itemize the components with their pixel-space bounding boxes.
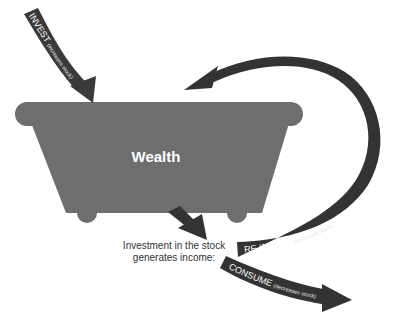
consume-arrowhead-icon	[322, 284, 352, 312]
svg-text:CONSUME(decreases stock): CONSUME(decreases stock)	[227, 261, 316, 299]
income-caption: Investment in the stock generates income…	[108, 240, 240, 264]
consume-arrow: CONSUME(decreases stock)	[220, 256, 352, 312]
invest-sublabel: (increases stock)	[46, 42, 75, 80]
caption-line-2: generates income:	[108, 252, 240, 264]
tub-body	[30, 120, 290, 213]
wealth-stock-flow-diagram: Wealth INVEST(increases stock) RE-INVEST…	[0, 0, 395, 321]
svg-text:INVEST(increases stock): INVEST(increases stock)	[27, 11, 75, 80]
reinvest-label: RE-INVEST	[244, 236, 294, 255]
stock-label: Wealth	[132, 148, 181, 165]
bathtub-stock: Wealth	[15, 102, 303, 223]
diagram-canvas: Wealth INVEST(increases stock) RE-INVEST…	[0, 0, 395, 321]
svg-text:RE-INVEST(increases stock): RE-INVEST(increases stock)	[244, 222, 334, 254]
reinvest-arrowhead-icon	[184, 66, 218, 90]
caption-line-1: Investment in the stock	[108, 240, 240, 252]
invest-arrow: INVEST(increases stock)	[24, 8, 96, 103]
